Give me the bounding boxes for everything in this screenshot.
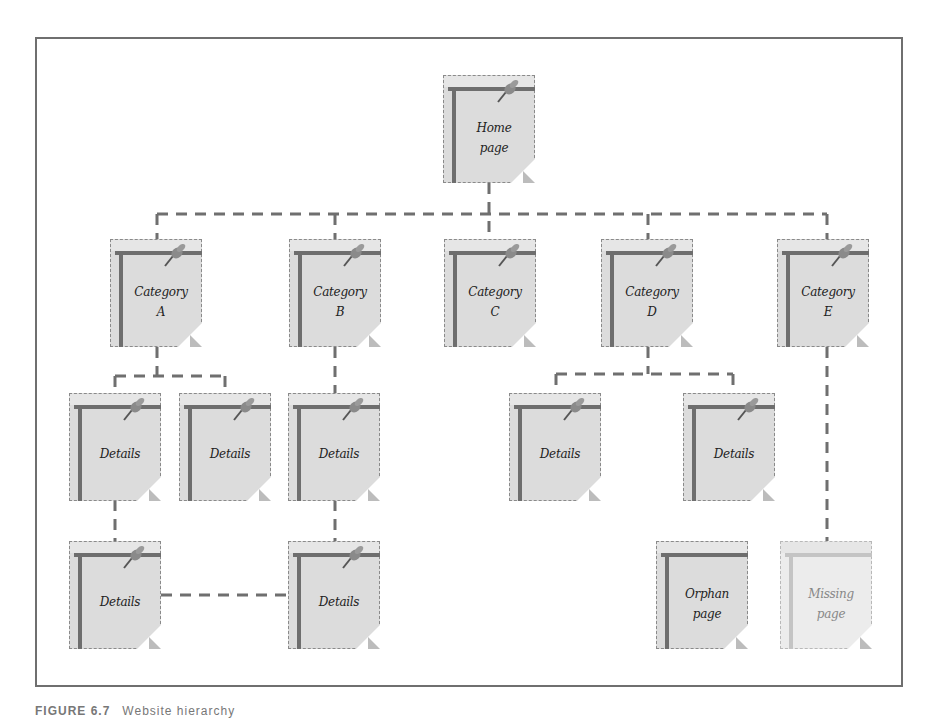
page-curl-icon <box>369 335 381 347</box>
figure-caption: FIGURE 6.7Website hierarchy <box>35 704 235 718</box>
page-curl-icon <box>523 171 535 183</box>
node-label-line1: Category <box>302 282 378 302</box>
category-b-node: CategoryB <box>289 239 381 347</box>
node-label-line1: Details <box>696 444 772 464</box>
page-curl-icon <box>259 489 271 501</box>
node-label-line2: C <box>457 302 533 322</box>
node-label-line1: Details <box>301 592 377 612</box>
node-label-line1: Category <box>457 282 533 302</box>
pushpin-icon <box>339 544 365 570</box>
home-page-node: Homepage <box>443 75 535 183</box>
node-label-line2: D <box>614 302 690 322</box>
details-d2-node: Details <box>683 393 775 501</box>
details-a1-sub-node: Details <box>69 541 161 649</box>
category-a-node: CategoryA <box>110 239 202 347</box>
pushpin-icon <box>161 242 187 268</box>
figure-number: FIGURE 6.7 <box>35 704 110 718</box>
category-d-node: CategoryD <box>601 239 693 347</box>
page-curl-icon <box>368 637 380 649</box>
node-label-line2: A <box>123 302 199 322</box>
node-label-line2: E <box>790 302 866 322</box>
pushpin-icon <box>560 396 586 422</box>
page-curl-icon <box>857 335 869 347</box>
node-label-line2: page <box>456 138 532 158</box>
page-curl-icon <box>736 637 748 649</box>
node-label-line2: page <box>669 604 745 624</box>
node-label-line1: Category <box>790 282 866 302</box>
node-label-line1: Home <box>456 118 532 138</box>
details-b1-sub-node: Details <box>288 541 380 649</box>
pushpin-icon <box>230 396 256 422</box>
node-label-line1: Details <box>192 444 268 464</box>
pushpin-icon <box>339 396 365 422</box>
details-d1-node: Details <box>509 393 601 501</box>
pushpin-icon <box>340 242 366 268</box>
page-curl-icon <box>681 335 693 347</box>
pushpin-icon <box>120 396 146 422</box>
page-curl-icon <box>524 335 536 347</box>
page-curl-icon <box>190 335 202 347</box>
node-label-line2: B <box>302 302 378 322</box>
page-curl-icon <box>149 489 161 501</box>
missing-page-node: Missingpage <box>780 541 872 649</box>
details-b1-node: Details <box>288 393 380 501</box>
node-label-line1: Orphan <box>669 584 745 604</box>
pushpin-icon <box>734 396 760 422</box>
pushpin-icon <box>652 242 678 268</box>
pushpin-icon <box>494 78 520 104</box>
node-label-line1: Missing <box>793 584 869 604</box>
node-label-line1: Details <box>82 592 158 612</box>
details-a2-node: Details <box>179 393 271 501</box>
category-c-node: CategoryC <box>444 239 536 347</box>
node-label-line1: Details <box>82 444 158 464</box>
details-a1-node: Details <box>69 393 161 501</box>
node-label-line1: Details <box>301 444 377 464</box>
orphan-page-node: Orphanpage <box>656 541 748 649</box>
node-label-line1: Details <box>522 444 598 464</box>
page-curl-icon <box>368 489 380 501</box>
node-label-line1: Category <box>614 282 690 302</box>
page-curl-icon <box>763 489 775 501</box>
node-label-line2: page <box>793 604 869 624</box>
category-e-node: CategoryE <box>777 239 869 347</box>
page-curl-icon <box>149 637 161 649</box>
page-curl-icon <box>860 637 872 649</box>
node-label-line1: Category <box>123 282 199 302</box>
page-curl-icon <box>589 489 601 501</box>
pushpin-icon <box>495 242 521 268</box>
figure-caption-text: Website hierarchy <box>122 704 235 718</box>
pushpin-icon <box>120 544 146 570</box>
pushpin-icon <box>828 242 854 268</box>
